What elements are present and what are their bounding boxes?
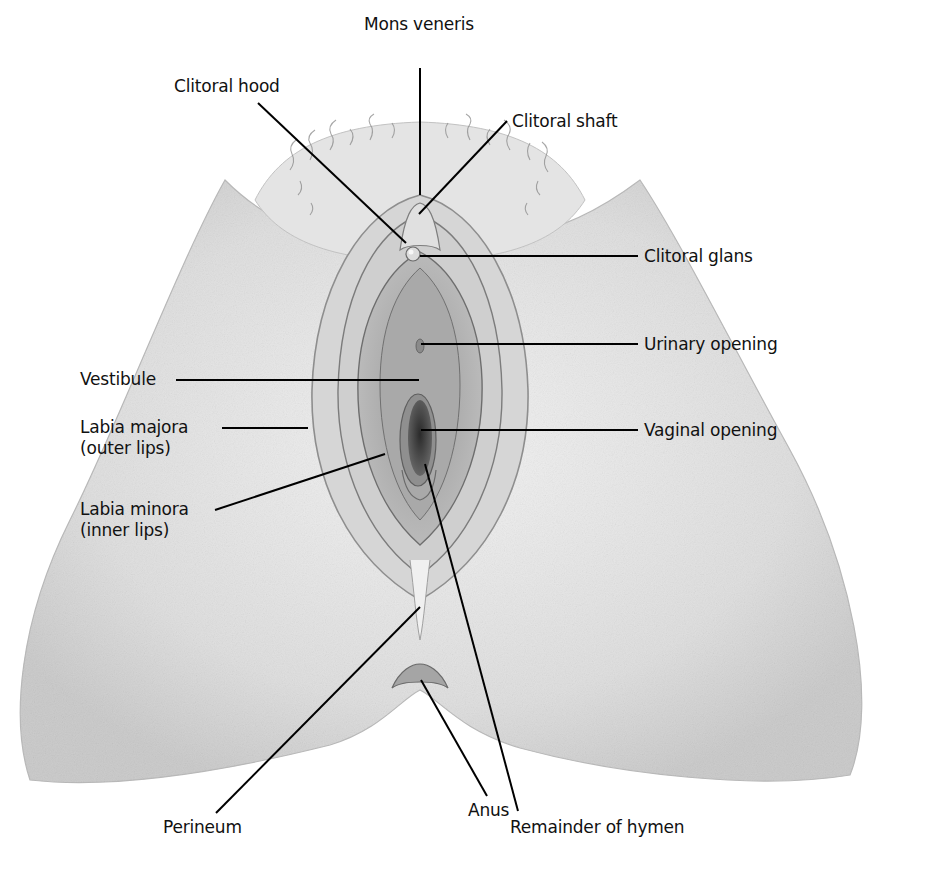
label-urinary-opening: Urinary opening xyxy=(644,334,778,355)
label-clitoral-hood: Clitoral hood xyxy=(174,76,280,97)
label-clitoral-shaft: Clitoral shaft xyxy=(512,111,618,132)
label-vestibule: Vestibule xyxy=(80,369,156,390)
label-labia-majora-main: Labia majora xyxy=(80,417,188,438)
label-labia-minora-main: Labia minora xyxy=(80,499,189,520)
label-labia-majora: Labia majora (outer lips) xyxy=(80,417,188,459)
label-labia-minora-sub: (inner lips) xyxy=(80,520,189,541)
label-remainder-of-hymen: Remainder of hymen xyxy=(510,817,684,838)
label-labia-minora: Labia minora (inner lips) xyxy=(80,499,189,541)
label-vaginal-opening: Vaginal opening xyxy=(644,420,777,441)
label-anus: Anus xyxy=(468,800,509,821)
urinary-opening-shape xyxy=(416,339,424,353)
label-clitoral-glans: Clitoral glans xyxy=(644,246,753,267)
label-mons-veneris: Mons veneris xyxy=(364,14,474,35)
anatomy-figure: Mons veneris Clitoral hood Clitoral shaf… xyxy=(0,0,936,871)
label-labia-majora-sub: (outer lips) xyxy=(80,438,188,459)
label-perineum: Perineum xyxy=(163,817,242,838)
